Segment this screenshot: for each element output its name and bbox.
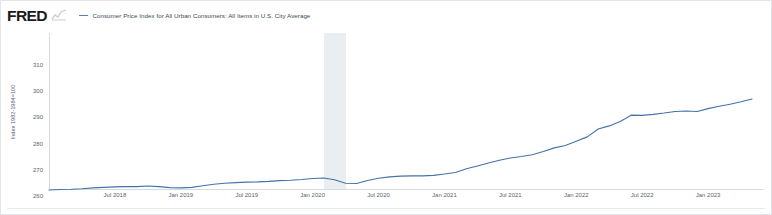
- cpi-line-series: [49, 33, 763, 190]
- plot-area: [49, 33, 763, 190]
- x-axis-tick: Jul 2022: [631, 192, 654, 198]
- x-axis-tick: Jul 2020: [367, 192, 390, 198]
- series-line: [49, 99, 752, 190]
- card-footer-divider: [7, 208, 765, 209]
- y-axis: Index 1982-1984=100 31030029028027026025…: [1, 33, 47, 190]
- y-axis-tick: 290: [33, 114, 43, 120]
- x-axis-tick: Jul 2019: [235, 192, 258, 198]
- y-axis-tick: 310: [33, 62, 43, 68]
- fred-logo[interactable]: FRED: [7, 8, 47, 23]
- x-axis-tick: Jan 2023: [696, 192, 721, 198]
- x-axis-tick: Jan 2020: [300, 192, 325, 198]
- legend-series-label: Consumer Price Index for All Urban Consu…: [92, 12, 310, 19]
- chart-legend: Consumer Price Index for All Urban Consu…: [79, 12, 310, 19]
- x-axis-tick: Jul 2018: [104, 192, 127, 198]
- legend-line-marker: [79, 15, 88, 16]
- y-axis-tick-labels: 310300290280270260250: [1, 65, 47, 215]
- y-axis-tick: 280: [33, 141, 43, 147]
- y-axis-tick: 270: [33, 167, 43, 173]
- x-axis-tick: Jan 2022: [564, 192, 589, 198]
- chart-header: FRED Consumer Price Index for All Urban …: [7, 5, 310, 25]
- y-axis-tick: 260: [33, 193, 43, 199]
- x-axis-tick-labels: Jul 2018Jan 2019Jul 2019Jan 2020Jul 2020…: [49, 192, 763, 206]
- line-chart-icon: [51, 9, 67, 21]
- y-axis-tick: 300: [33, 88, 43, 94]
- fred-chart-card: FRED Consumer Price Index for All Urban …: [0, 0, 772, 215]
- x-axis-tick: Jan 2019: [168, 192, 193, 198]
- x-axis-tick: Jan 2021: [432, 192, 457, 198]
- x-axis-tick: Jul 2021: [499, 192, 522, 198]
